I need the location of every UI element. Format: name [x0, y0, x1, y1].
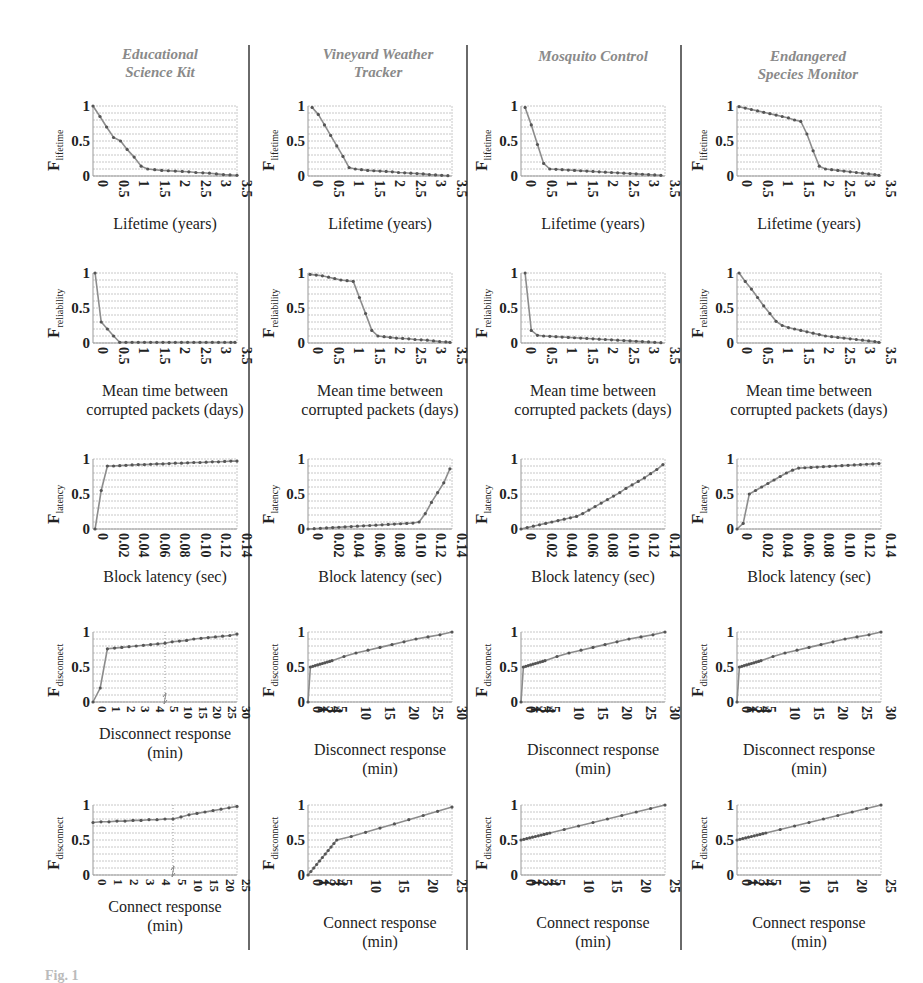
- data-point: [877, 462, 880, 465]
- x-tick-label: 1: [351, 347, 366, 354]
- data-point: [201, 171, 204, 174]
- x-tick-label: 2: [821, 347, 836, 354]
- series-line: [521, 465, 663, 529]
- data-point: [585, 337, 588, 340]
- data-point: [610, 171, 613, 174]
- x-tick-label: 5: [547, 706, 562, 713]
- y-tick-label: 0: [511, 168, 519, 184]
- data-point: [448, 467, 451, 470]
- y-axis-title: Flifetime: [688, 129, 709, 171]
- series-line: [95, 461, 237, 529]
- x-tick-label: 0.10: [842, 533, 857, 558]
- data-point: [378, 827, 381, 830]
- data-point: [318, 859, 321, 862]
- series-line: [308, 807, 452, 875]
- x-tick-label: 0: [310, 347, 325, 354]
- x-axis-title-line: Block latency (sec): [481, 567, 705, 586]
- data-point: [195, 812, 198, 815]
- data-point: [877, 174, 880, 177]
- data-point: [91, 700, 94, 703]
- x-tick-label: 3: [862, 347, 877, 354]
- data-point: [325, 526, 328, 529]
- x-tick-label: 0.5: [544, 180, 559, 198]
- x-axis-title: Block latency (sec): [268, 567, 492, 586]
- data-point: [306, 527, 309, 530]
- y-tick-label: 0.5: [71, 832, 90, 848]
- x-tick-label: 2: [392, 180, 407, 187]
- data-point: [306, 700, 309, 703]
- y-axis-title: Fdisconnect: [472, 644, 493, 697]
- data-point: [822, 465, 825, 468]
- data-point: [187, 813, 190, 816]
- data-point: [126, 148, 129, 151]
- y-tick-label: 0.5: [286, 832, 305, 848]
- x-tick-label: 0: [95, 706, 110, 713]
- x-tick-label: 1.5: [585, 347, 600, 365]
- data-point: [649, 807, 652, 810]
- data-point: [401, 337, 404, 340]
- y-axis-title: Fdisconnect: [44, 817, 65, 870]
- x-tick-label: 0: [739, 347, 754, 354]
- data-point: [330, 659, 333, 662]
- data-point: [598, 170, 601, 173]
- y-tick-label: 0: [727, 335, 735, 351]
- x-tick-label: 0.10: [198, 533, 213, 558]
- data-point: [161, 462, 164, 465]
- y-axis-title: Flatency: [259, 485, 280, 524]
- data-point: [637, 480, 640, 483]
- x-tick-label: 10: [797, 879, 812, 893]
- data-point: [192, 341, 195, 344]
- x-axis-title-line: (min): [697, 932, 921, 951]
- x-axis-title: Connect response(min): [481, 913, 705, 951]
- data-point: [641, 173, 644, 176]
- x-axis-title: Disconnect response(min): [53, 724, 277, 762]
- x-tick-label: 0.10: [626, 533, 641, 558]
- y-axis-title: Flifetime: [44, 129, 65, 171]
- x-tick-label: 2: [821, 180, 836, 187]
- x-axis-title: Mean time betweencorrupted packets (days…: [53, 381, 277, 419]
- data-point: [754, 489, 757, 492]
- data-point: [781, 115, 784, 118]
- data-point: [194, 171, 197, 174]
- data-point: [426, 635, 429, 638]
- data-point: [378, 646, 381, 649]
- data-point: [537, 834, 540, 837]
- data-point: [436, 810, 439, 813]
- data-point: [153, 168, 156, 171]
- data-point: [762, 111, 765, 114]
- y-axis-title: Fdisconnect: [688, 644, 709, 697]
- data-point: [91, 821, 94, 824]
- data-point: [422, 814, 425, 817]
- x-axis-title: Mean time betweencorrupted packets (days…: [481, 381, 705, 419]
- data-point: [530, 123, 533, 126]
- data-point: [198, 461, 201, 464]
- data-point: [160, 169, 163, 172]
- data-point: [350, 525, 353, 528]
- data-point: [420, 338, 423, 341]
- data-point: [569, 516, 572, 519]
- x-axis-title: Lifetime (years): [53, 214, 277, 233]
- data-point: [341, 155, 344, 158]
- x-tick-label: 1.5: [372, 180, 387, 198]
- data-point: [843, 637, 846, 640]
- data-point: [143, 463, 146, 466]
- data-point: [321, 856, 324, 859]
- x-axis-title-line: (min): [481, 759, 705, 778]
- data-point: [524, 271, 527, 274]
- data-point: [830, 168, 833, 171]
- data-point: [124, 464, 127, 467]
- chart-panel: 00.5100.511.522.533.5Flifetime: [33, 96, 257, 226]
- data-point: [760, 485, 763, 488]
- x-tick-label: 5: [552, 879, 567, 886]
- data-point: [235, 805, 238, 808]
- y-tick-label: 0: [83, 521, 91, 537]
- x-tick-label: 10: [787, 706, 802, 720]
- data-point: [211, 809, 214, 812]
- data-point: [774, 320, 777, 323]
- x-axis-title-line: Block latency (sec): [53, 567, 277, 586]
- x-tick-label: 0: [523, 347, 538, 354]
- x-tick-label: 2: [177, 180, 192, 187]
- data-point: [174, 462, 177, 465]
- data-point: [532, 525, 535, 528]
- x-tick-label: 2: [605, 347, 620, 354]
